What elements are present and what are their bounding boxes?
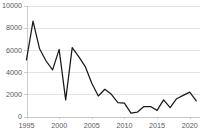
x-tick-label: 1995: [19, 121, 35, 130]
y-tick-label: 4000: [6, 68, 22, 77]
y-tick-label: 2000: [6, 90, 22, 99]
chart-canvas: 0200040006000800010000 19952000200520102…: [0, 0, 205, 134]
y-tick-label: 6000: [6, 46, 22, 55]
plot-background: [0, 0, 205, 134]
x-tick-label: 2005: [84, 121, 100, 130]
y-tick-label: 10000: [2, 1, 22, 10]
y-tick-label: 0: [18, 112, 22, 121]
x-tick-label: 2000: [51, 121, 67, 130]
x-tick-label: 2010: [116, 121, 132, 130]
y-tick-label: 8000: [6, 23, 22, 32]
x-tick-label: 2020: [182, 121, 198, 130]
x-tick-label: 2015: [149, 121, 165, 130]
line-chart: 0200040006000800010000 19952000200520102…: [0, 0, 205, 134]
